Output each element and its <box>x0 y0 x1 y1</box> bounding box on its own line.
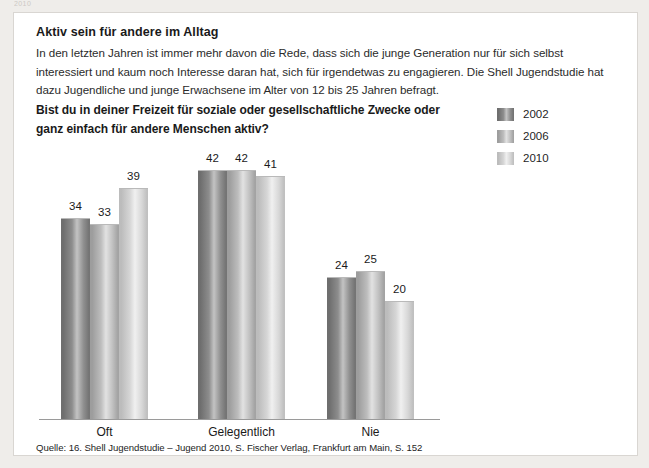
bar-value-label: 34 <box>61 200 90 212</box>
chart-source: Quelle: 16. Shell Jugendstudie – Jugend … <box>36 442 422 453</box>
bar-value-label: 42 <box>227 152 256 164</box>
chart-baseline-axis <box>39 419 440 420</box>
bar-gelegentlich-2006 <box>227 170 256 419</box>
bar-gelegentlich-2002 <box>198 170 227 419</box>
bar-value-label: 24 <box>327 259 356 271</box>
bar-nie-2006 <box>356 271 385 419</box>
chart-plot-area: 343339424241242520 <box>14 13 639 419</box>
bar-value-label: 41 <box>256 158 285 170</box>
bar-chart: 343339424241242520 OftGelegentlichNie <box>14 13 639 457</box>
bar-nie-2002 <box>327 277 356 419</box>
bar-value-label: 42 <box>198 152 227 164</box>
bar-oft-2002 <box>61 218 90 419</box>
bar-value-label: 20 <box>385 283 414 295</box>
bar-oft-2006 <box>90 224 119 419</box>
category-label-nie: Nie <box>311 425 431 439</box>
bar-value-label: 33 <box>90 206 119 218</box>
bar-nie-2010 <box>385 301 414 419</box>
category-label-oft: Oft <box>45 425 165 439</box>
bar-value-label: 39 <box>119 170 148 182</box>
page-crumb: 2010 <box>14 0 66 9</box>
content-card: Aktiv sein für andere im Alltag In den l… <box>13 12 638 456</box>
bar-value-label: 25 <box>356 253 385 265</box>
category-label-gelegentlich: Gelegentlich <box>182 425 302 439</box>
bar-gelegentlich-2010 <box>256 176 285 419</box>
bar-oft-2010 <box>119 188 148 419</box>
